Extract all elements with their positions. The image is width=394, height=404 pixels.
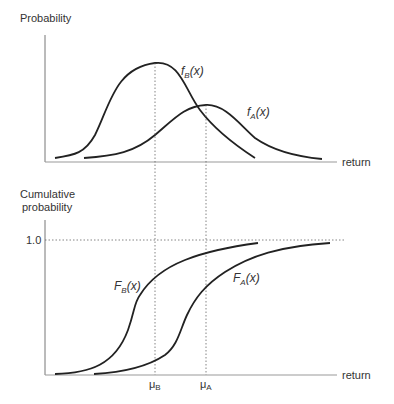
density-b-label: fB(x) bbox=[181, 64, 204, 80]
top-panel: Probability return fB(x) fA(x) bbox=[20, 12, 371, 168]
density-a-label: fA(x) bbox=[247, 105, 270, 121]
cdf-curve-a bbox=[94, 243, 330, 374]
y-tick-1-0: 1.0 bbox=[26, 234, 41, 246]
bottom-y-axis-label-line2: probability bbox=[22, 201, 73, 213]
cdf-b-label: FB(x) bbox=[114, 279, 141, 295]
distribution-diagram: Probability return fB(x) fA(x) Cumulativ… bbox=[0, 0, 394, 404]
bottom-x-axis-label: return bbox=[342, 369, 371, 381]
top-x-axis-label: return bbox=[342, 156, 371, 168]
bottom-panel: Cumulative probability return 1.0 FB(x) … bbox=[20, 188, 371, 392]
top-y-axis-label: Probability bbox=[20, 12, 72, 24]
mu-b-label: μB bbox=[149, 378, 161, 392]
mu-a-label: μA bbox=[200, 378, 212, 392]
cdf-curve-b bbox=[55, 243, 258, 374]
bottom-y-axis-label-line1: Cumulative bbox=[20, 188, 75, 200]
cdf-a-label: FA(x) bbox=[233, 271, 260, 287]
